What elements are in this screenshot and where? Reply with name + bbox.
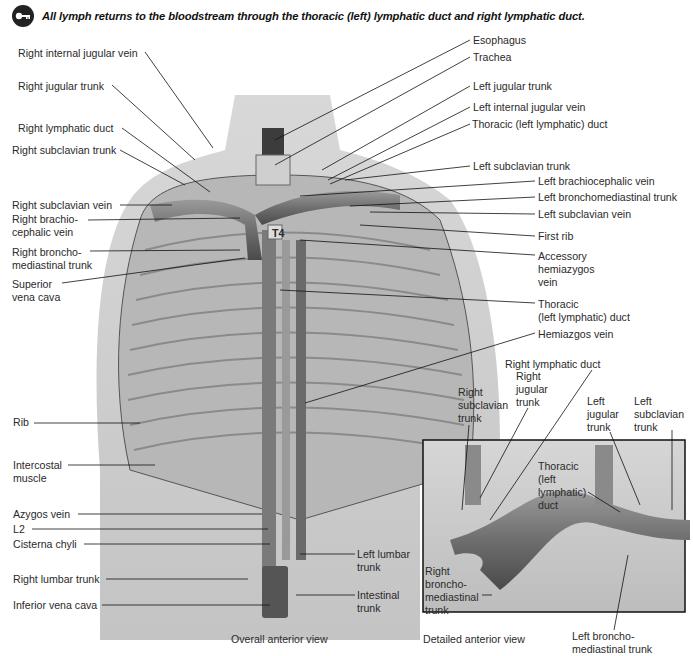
label-detail-left-bronchomediastinal-trunk: Left broncho- mediastinal trunk	[572, 630, 652, 656]
label-thoracic-duct-top: Thoracic (left lymphatic) duct	[472, 118, 607, 131]
label-detail-left-subclavian-trunk: Left subclavian trunk	[634, 395, 684, 434]
label-right-subclavian-trunk: Right subclavian trunk	[12, 144, 116, 157]
label-right-lumbar-trunk: Right lumbar trunk	[13, 573, 100, 586]
label-detail-thoracic-duct: Thoracic (left lymphatic) duct	[538, 460, 586, 512]
label-left-bronchomediastinal-trunk: Left bronchomediastinal trunk	[538, 191, 677, 204]
label-left-brachiocephalic-vein: Left brachiocephalic vein	[538, 175, 655, 188]
label-cisterna-chyli: Cisterna chyli	[13, 538, 77, 551]
label-right-brachiocephalic-vein: Right brachio- cephalic vein	[12, 213, 78, 239]
caption-detailed-anterior-view: Detailed anterior view	[423, 633, 525, 645]
label-right-subclavian-vein: Right subclavian vein	[12, 199, 112, 212]
label-azygos-vein: Azygos vein	[13, 508, 70, 521]
label-left-jugular-trunk: Left jugular trunk	[473, 80, 552, 93]
label-t4: T4	[272, 227, 284, 240]
label-left-subclavian-vein: Left subclavian vein	[538, 208, 631, 221]
label-l2: L2	[13, 523, 25, 536]
label-superior-vena-cava: Superior vena cava	[12, 278, 60, 304]
label-detail-right-bronchomediastinal-trunk: Right broncho- mediastinal trunk	[425, 565, 479, 617]
caption-overall-anterior-view: Overall anterior view	[231, 633, 328, 645]
label-left-subclavian-trunk: Left subclavian trunk	[473, 160, 570, 173]
label-intercostal-muscle: Intercostal muscle	[13, 459, 62, 485]
label-left-lumbar-trunk: Left lumbar trunk	[357, 548, 410, 574]
label-right-jugular-trunk: Right jugular trunk	[18, 80, 104, 93]
label-detail-right-subclavian-trunk: Right subclavian trunk	[458, 386, 508, 425]
label-hemiazygos-vein: Hemiazgos vein	[538, 328, 613, 341]
label-left-internal-jugular-vein: Left internal jugular vein	[473, 101, 585, 114]
label-right-bronchomediastinal-trunk: Right broncho- mediastinal trunk	[12, 246, 92, 272]
label-right-lymphatic-duct: Right lymphatic duct	[18, 122, 113, 135]
label-right-internal-jugular-vein: Right internal jugular vein	[18, 47, 138, 60]
label-accessory-hemiazygos-vein: Accessory hemiazygos vein	[538, 250, 595, 289]
label-detail-right-jugular-trunk: Right jugular trunk	[516, 370, 548, 409]
label-intestinal-trunk: Intestinal trunk	[357, 589, 399, 615]
label-esophagus: Esophagus	[473, 34, 526, 47]
label-inferior-vena-cava: Inferior vena cava	[13, 599, 97, 612]
label-trachea: Trachea	[473, 51, 511, 64]
label-thoracic-duct-mid: Thoracic (left lymphatic) duct	[538, 298, 630, 324]
label-detail-left-jugular-trunk: Left jugular trunk	[587, 395, 619, 434]
label-rib: Rib	[13, 416, 29, 429]
label-first-rib: First rib	[538, 230, 573, 243]
